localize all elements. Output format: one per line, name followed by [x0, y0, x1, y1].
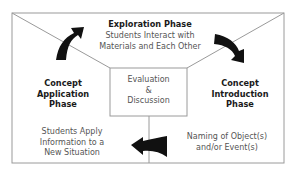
concept-application-phase-heading: Concept Application Phase	[18, 78, 108, 110]
center-line-3: Discussion	[110, 96, 187, 107]
application-heading-line-3: Phase	[18, 99, 108, 110]
center-line-1: Evaluation	[110, 75, 187, 86]
application-heading-line-1: Concept	[18, 78, 108, 89]
introduction-heading-line-1: Concept	[195, 78, 285, 89]
concept-introduction-phase-heading: Concept Introduction Phase	[195, 78, 285, 110]
concept-application-description: Students Apply Information to a New Situ…	[22, 127, 122, 159]
exploration-line-1: Students Interact with	[80, 31, 220, 42]
exploration-phase-heading: Exploration Phase	[90, 19, 210, 30]
concept-introduction-description: Naming of Object(s) and/or Event(s)	[172, 132, 282, 153]
introduction-heading-line-2: Introduction	[195, 89, 285, 100]
introduction-line-1: Naming of Object(s)	[172, 132, 282, 143]
center-line-2: &	[110, 86, 187, 97]
application-line-2: Information to a	[22, 138, 122, 149]
evaluation-discussion-label: Evaluation & Discussion	[110, 75, 187, 107]
exploration-line-2: Materials and Each Other	[80, 42, 220, 53]
application-line-1: Students Apply	[22, 127, 122, 138]
introduction-line-2: and/or Event(s)	[172, 143, 282, 154]
exploration-phase-description: Students Interact with Materials and Eac…	[80, 31, 220, 52]
introduction-heading-line-3: Phase	[195, 99, 285, 110]
application-heading-line-2: Application	[18, 89, 108, 100]
application-line-3: New Situation	[22, 148, 122, 159]
